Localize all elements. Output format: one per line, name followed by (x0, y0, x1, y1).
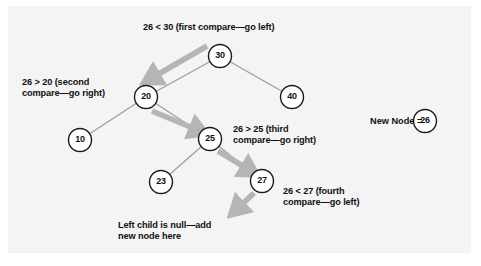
node-label-20: 20 (133, 91, 159, 101)
label-second-compare: 26 > 20 (second compare—go right) (22, 77, 105, 100)
bst-insertion-figure: 30 20 40 10 25 23 27 26 26 < 30 (first c… (0, 0, 481, 266)
arrow-third-compare (218, 151, 251, 171)
label-null-child: Left child is null—add new node here (118, 220, 211, 243)
label-new-node: New Node = (370, 116, 422, 126)
arrow-fourth-compare (236, 193, 254, 210)
tree-edges (80, 56, 292, 182)
node-label-23: 23 (148, 176, 174, 186)
node-label-27: 27 (249, 175, 275, 185)
label-first-compare: 26 < 30 (first compare—go left) (143, 22, 274, 33)
label-third-compare: 26 > 25 (third compare—go right) (233, 124, 316, 147)
arrow-second-compare (152, 111, 200, 131)
node-label-30: 30 (207, 50, 233, 60)
node-label-25: 25 (197, 133, 223, 143)
node-label-40: 40 (279, 91, 305, 101)
arrow-first-compare (150, 46, 207, 79)
node-label-10: 10 (67, 134, 93, 144)
label-fourth-compare: 26 < 27 (fourth compare—go left) (283, 186, 360, 209)
